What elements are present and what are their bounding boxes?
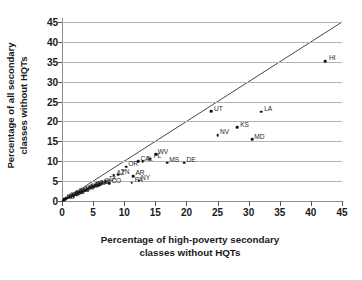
identity-reference-line bbox=[62, 22, 342, 201]
data-point-label-hi: HI bbox=[329, 54, 335, 61]
y-tick-mark-0 bbox=[57, 201, 62, 202]
x-tick-label-25: 25 bbox=[212, 207, 223, 218]
x-tick-label-30: 30 bbox=[243, 207, 254, 218]
x-tick-label-10: 10 bbox=[119, 207, 130, 218]
data-point-label-az: AZ bbox=[117, 168, 125, 175]
y-tick-label-15: 15 bbox=[36, 136, 58, 147]
data-point-label-ut: UT bbox=[214, 104, 223, 111]
x-tick-label-40: 40 bbox=[305, 207, 316, 218]
data-point-label-nb: NB bbox=[66, 194, 74, 200]
x-tick-mark-20 bbox=[186, 201, 187, 206]
data-point-label-or: OR bbox=[128, 160, 138, 167]
y-tick-label-20: 20 bbox=[36, 116, 58, 127]
y-axis-title-line-1: Percentage of all secondary bbox=[5, 42, 18, 168]
data-point-ks bbox=[236, 126, 239, 129]
x-tick-label-35: 35 bbox=[274, 207, 285, 218]
y-tick-label-45: 45 bbox=[36, 17, 58, 28]
y-tick-mark-40 bbox=[57, 42, 62, 43]
y-tick-mark-30 bbox=[57, 82, 62, 83]
data-point-de bbox=[183, 162, 186, 165]
gridline-y-10 bbox=[62, 161, 342, 162]
y-tick-label-10: 10 bbox=[36, 156, 58, 167]
gridline-y-15 bbox=[62, 141, 342, 142]
x-tick-mark-45 bbox=[342, 201, 343, 206]
x-tick-mark-5 bbox=[93, 201, 94, 206]
scatter-chart-figure: Percentage of all secondary classes with… bbox=[0, 0, 362, 281]
y-tick-mark-5 bbox=[57, 181, 62, 182]
x-tick-label-20: 20 bbox=[181, 207, 192, 218]
x-tick-mark-10 bbox=[124, 201, 125, 206]
data-point-nv bbox=[216, 134, 219, 137]
y-tick-label-0: 0 bbox=[36, 196, 58, 207]
y-tick-mark-45 bbox=[57, 22, 62, 23]
data-point-label-de: DE bbox=[186, 156, 195, 163]
data-point-hi bbox=[324, 60, 327, 63]
data-point-label-nv: NV bbox=[220, 128, 229, 135]
data-point-label-ca: CA bbox=[140, 154, 149, 161]
data-point-label-la: LA bbox=[264, 105, 272, 112]
x-tick-mark-30 bbox=[249, 201, 250, 206]
y-tick-mark-15 bbox=[57, 141, 62, 142]
x-axis-title: Percentage of high-poverty secondary cla… bbox=[40, 233, 340, 259]
x-axis-title-line-2: classes without HQTs bbox=[40, 246, 340, 259]
y-tick-mark-25 bbox=[57, 102, 62, 103]
gridline-y-25 bbox=[62, 102, 342, 103]
x-axis-title-line-1: Percentage of high-poverty secondary bbox=[40, 233, 340, 246]
y-tick-label-40: 40 bbox=[36, 36, 58, 47]
x-tick-mark-25 bbox=[218, 201, 219, 206]
x-tick-label-0: 0 bbox=[59, 207, 65, 218]
x-tick-label-15: 15 bbox=[150, 207, 161, 218]
gridline-y-40 bbox=[62, 42, 342, 43]
data-point-la bbox=[260, 110, 263, 113]
x-tick-mark-35 bbox=[280, 201, 281, 206]
gridline-y-20 bbox=[62, 121, 342, 122]
x-tick-label-45: 45 bbox=[336, 207, 347, 218]
x-tick-mark-0 bbox=[62, 201, 63, 206]
gridline-y-30 bbox=[62, 82, 342, 83]
x-tick-label-5: 5 bbox=[90, 207, 96, 218]
x-axis: 051015202530354045 bbox=[62, 201, 342, 231]
x-tick-mark-40 bbox=[311, 201, 312, 206]
y-tick-label-30: 30 bbox=[36, 76, 58, 87]
y-tick-mark-10 bbox=[57, 161, 62, 162]
gridline-y-45 bbox=[62, 22, 342, 23]
plot-area: HILAUTKSNVMDWVFLILCAMSDEORARTNAZNYPACOTX… bbox=[62, 22, 342, 201]
data-point-label-md: MD bbox=[254, 132, 264, 139]
data-point-ms bbox=[166, 162, 169, 165]
gridline-y-35 bbox=[62, 62, 342, 63]
x-tick-mark-15 bbox=[155, 201, 156, 206]
y-tick-label-35: 35 bbox=[36, 56, 58, 67]
y-axis-title: Percentage of all secondary classes with… bbox=[0, 0, 34, 210]
data-point-label-ms: MS bbox=[169, 156, 179, 163]
y-tick-mark-20 bbox=[57, 121, 62, 122]
data-point-md bbox=[251, 138, 254, 141]
data-point-label-pa: PA bbox=[135, 176, 143, 183]
data-point-label-ks: KS bbox=[240, 120, 249, 127]
data-point-ut bbox=[210, 110, 213, 113]
y-axis-title-line-2: classes without HQTs bbox=[17, 42, 30, 168]
y-tick-label-25: 25 bbox=[36, 96, 58, 107]
data-point-label-fl: FL bbox=[154, 152, 162, 159]
y-tick-label-5: 5 bbox=[36, 176, 58, 187]
y-tick-mark-35 bbox=[57, 62, 62, 63]
data-point-pa bbox=[130, 181, 133, 184]
